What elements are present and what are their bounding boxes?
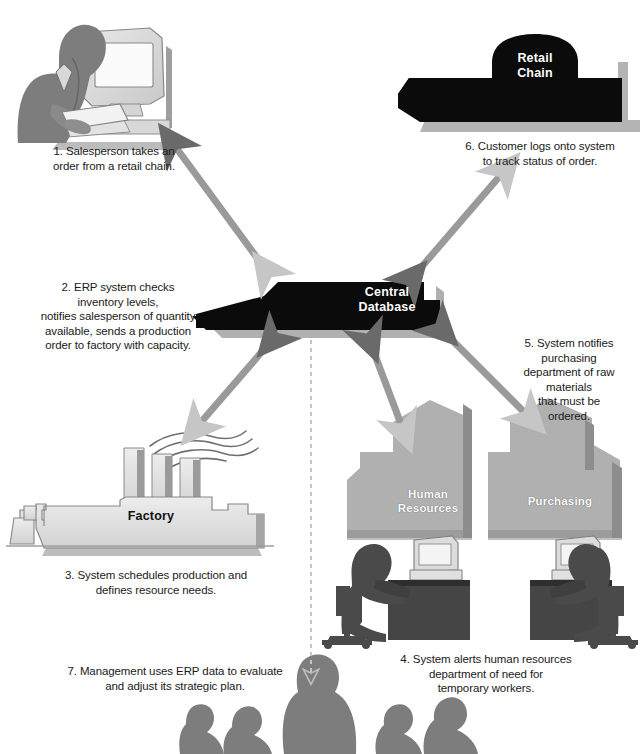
step-5-caption: 5. System notifies purchasing department… <box>506 336 632 423</box>
erp-diagram-canvas: Management (dashed, single-headed, down)… <box>0 0 643 754</box>
step-4-caption: 4. System alerts human resources departm… <box>370 652 602 696</box>
step-2-caption: 2. ERP system checks inventory levels, n… <box>6 280 230 353</box>
retail-chain-building <box>398 34 640 132</box>
step-3-caption: 3. System schedules production and defin… <box>36 568 276 597</box>
human-resources-label: Human Resources <box>374 487 482 515</box>
hr-worker-illustration <box>322 536 470 649</box>
salesperson-illustration <box>18 25 175 150</box>
arrow-factory-database <box>196 340 272 428</box>
factory-label: Factory <box>96 509 206 523</box>
central-database-label: Central Database <box>322 285 452 315</box>
step-6-caption: 6. Customer logs onto system to track st… <box>440 139 640 168</box>
purchasing-label: Purchasing <box>500 494 620 508</box>
human-resources-building <box>347 400 472 540</box>
arrow-retailchain-database <box>412 170 505 278</box>
step-1-caption: 1. Salesperson takes an order from a ret… <box>14 144 214 173</box>
step-7-caption: 7. Management uses ERP data to evaluate … <box>46 664 304 693</box>
arrow-hr-database <box>370 342 404 432</box>
retail-chain-label: Retail Chain <box>490 51 580 81</box>
purchasing-worker-illustration <box>530 536 638 649</box>
factory-building <box>6 431 274 556</box>
